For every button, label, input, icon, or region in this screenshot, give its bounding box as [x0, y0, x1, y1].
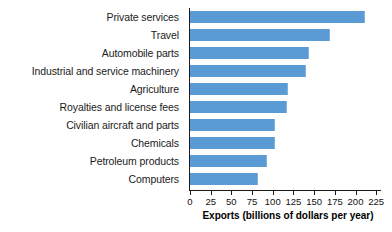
- bar: [190, 137, 275, 149]
- bar: [190, 65, 306, 77]
- category-label: Chemicals: [0, 134, 184, 152]
- x-axis-tick: [252, 190, 253, 195]
- category-label: Travel: [0, 26, 184, 44]
- category-label-column: Private servicesTravelAutomobile partsIn…: [0, 8, 184, 188]
- bar: [190, 29, 330, 41]
- bar-series: [190, 8, 386, 188]
- category-label: Agriculture: [0, 80, 184, 98]
- bar: [190, 119, 275, 131]
- category-label: Computers: [0, 170, 184, 188]
- x-axis-tick-labels: 0255075100125150175200225: [190, 196, 386, 209]
- bar-row: [190, 116, 386, 134]
- category-label: Civilian aircraft and parts: [0, 116, 184, 134]
- x-axis-title: Exports (billions of dollars per year): [190, 210, 386, 221]
- bar: [190, 101, 287, 113]
- bar: [190, 173, 258, 185]
- x-axis-tick-label: 50: [226, 196, 237, 207]
- x-axis-tick: [335, 190, 336, 195]
- bar-row: [190, 80, 386, 98]
- x-axis-tick: [231, 190, 232, 195]
- plot-area: [190, 8, 386, 190]
- x-axis-tick-label: 0: [187, 196, 192, 207]
- x-axis-tick-label: 150: [306, 196, 322, 207]
- bar: [190, 47, 309, 59]
- bar-row: [190, 98, 386, 116]
- bar: [190, 155, 267, 167]
- bar-row: [190, 62, 386, 80]
- x-axis-tick: [293, 190, 294, 195]
- category-label: Petroleum products: [0, 152, 184, 170]
- x-axis-tick-label: 225: [368, 196, 384, 207]
- x-axis-tick-label: 200: [348, 196, 364, 207]
- x-axis-tick-label: 125: [286, 196, 302, 207]
- category-label: Private services: [0, 8, 184, 26]
- bar-row: [190, 134, 386, 152]
- x-axis-tick: [376, 190, 377, 195]
- x-axis-tick-label: 100: [265, 196, 281, 207]
- bar-row: [190, 170, 386, 188]
- x-axis-tick: [211, 190, 212, 195]
- x-axis-tick: [273, 190, 274, 195]
- x-axis-tick: [190, 190, 191, 195]
- x-axis-tick: [356, 190, 357, 195]
- category-label: Automobile parts: [0, 44, 184, 62]
- x-axis-tick-label: 25: [205, 196, 216, 207]
- x-axis-tick: [314, 190, 315, 195]
- bar-row: [190, 44, 386, 62]
- bar-row: [190, 8, 386, 26]
- x-axis-tick-label: 75: [247, 196, 258, 207]
- category-label: Industrial and service machinery: [0, 62, 184, 80]
- bar-chart: Private servicesTravelAutomobile partsIn…: [0, 0, 392, 232]
- bar: [190, 83, 288, 95]
- bar: [190, 11, 365, 23]
- x-axis-tick-label: 175: [327, 196, 343, 207]
- bar-row: [190, 26, 386, 44]
- bar-row: [190, 152, 386, 170]
- category-label: Royalties and license fees: [0, 98, 184, 116]
